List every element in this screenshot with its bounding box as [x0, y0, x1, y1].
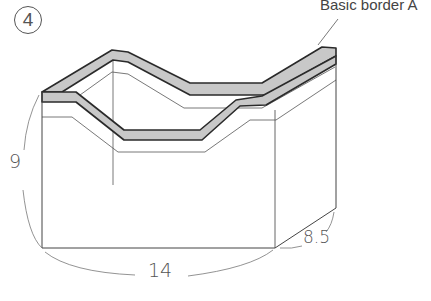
- width-dimension-curve-right: [188, 250, 273, 276]
- box-diagram: [0, 0, 431, 301]
- depth-dimension-label: 8.5: [303, 227, 330, 247]
- depth-dimension-curve-left: [280, 246, 302, 248]
- height-dimension-curve-lower: [23, 190, 42, 248]
- callout-leader-line: [318, 19, 338, 45]
- step-number-badge: 4: [14, 6, 42, 34]
- width-dimension-curve-left: [45, 252, 135, 275]
- height-dimension-label: 9: [9, 150, 21, 172]
- width-dimension-label: 14: [148, 259, 172, 281]
- height-dimension-curve: [24, 95, 39, 150]
- callout-label: Basic border A: [320, 0, 418, 13]
